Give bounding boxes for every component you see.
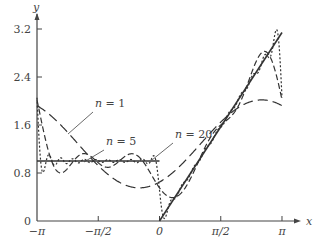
series-n-1 xyxy=(37,100,282,188)
x-tick-label: π xyxy=(277,225,286,238)
y-tick-label: 3.2 xyxy=(14,23,32,36)
series-n-5 xyxy=(37,51,282,197)
x-axis-label: x xyxy=(306,215,313,228)
axes: yx00.81.62.43.2−π−π/20π/2π xyxy=(14,1,314,238)
x-axis-arrow-icon xyxy=(294,219,301,224)
x-tick-label: −π xyxy=(29,225,46,238)
series-n-20 xyxy=(37,30,282,219)
curves xyxy=(37,30,282,221)
annotation-label: n = 20 xyxy=(175,128,212,141)
y-tick-label: 1.6 xyxy=(14,119,32,132)
y-tick-label: 0.8 xyxy=(14,167,32,180)
annotation-label: n = 1 xyxy=(95,97,125,110)
annotation-label: n = 5 xyxy=(106,135,136,148)
x-tick-label: π/2 xyxy=(211,225,230,238)
x-tick-label: −π/2 xyxy=(85,225,112,238)
y-axis-arrow-icon xyxy=(35,13,40,20)
annotation-leader xyxy=(152,143,173,160)
y-tick-label: 2.4 xyxy=(14,71,32,84)
annotation-leader xyxy=(68,112,93,134)
x-tick-label: 0 xyxy=(156,225,163,238)
annotations: n = 1n = 5n = 20 xyxy=(68,97,212,162)
fourier-series-chart: yx00.81.62.43.2−π−π/20π/2π n = 1n = 5n =… xyxy=(0,0,315,245)
y-axis-label: y xyxy=(32,1,40,14)
